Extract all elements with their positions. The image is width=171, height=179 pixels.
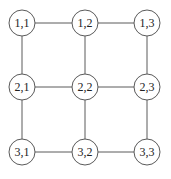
node-label: 2,1: [15, 80, 30, 94]
node-label: 2,2: [78, 80, 93, 94]
node-1-1: 1,1: [9, 10, 35, 36]
node-label: 1,3: [140, 16, 155, 30]
node-2-2: 2,2: [72, 74, 98, 100]
node-3-1: 3,1: [9, 139, 35, 165]
node-label: 3,2: [78, 145, 93, 159]
node-label: 1,1: [15, 16, 30, 30]
node-label: 3,1: [15, 145, 30, 159]
node-label: 3,3: [140, 145, 155, 159]
node-2-1: 2,1: [9, 74, 35, 100]
node-1-3: 1,3: [134, 10, 160, 36]
node-1-2: 1,2: [72, 10, 98, 36]
nodes: 1,11,21,32,12,22,33,13,23,3: [9, 10, 160, 165]
node-label: 2,3: [140, 80, 155, 94]
grid-graph: 1,11,21,32,12,22,33,13,23,3: [0, 0, 171, 179]
node-label: 1,2: [78, 16, 93, 30]
node-2-3: 2,3: [134, 74, 160, 100]
node-3-2: 3,2: [72, 139, 98, 165]
node-3-3: 3,3: [134, 139, 160, 165]
